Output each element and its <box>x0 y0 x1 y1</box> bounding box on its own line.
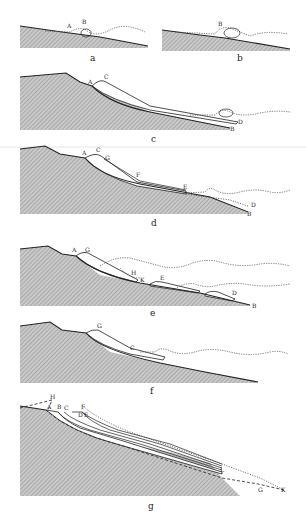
panel-e-label-B: B <box>252 302 257 309</box>
panel-b-ground <box>162 30 290 51</box>
panel-d-label-C: C <box>96 146 101 153</box>
panel-d-label-E: E <box>183 183 187 190</box>
panel-d-label-G: G <box>105 154 110 161</box>
panel-d-caption: d <box>151 218 157 228</box>
panel-f-label-G: G <box>97 322 102 329</box>
panel-e-label-G: G <box>85 246 90 253</box>
panel-c-label-C: C <box>104 73 109 80</box>
panel-a-caption: a <box>90 53 96 63</box>
panel-e-label-K: K <box>140 276 145 283</box>
panel-d-wave <box>186 188 290 193</box>
panel-g-label-C: C <box>64 404 69 411</box>
panel-e-caption: e <box>150 308 155 318</box>
panel-f-wave <box>140 349 288 355</box>
panel-g-label-K: K <box>281 486 286 493</box>
panel-f: G C f <box>20 322 288 396</box>
panel-g-label-D: D <box>78 411 83 418</box>
panel-g-label-L: L <box>220 466 224 473</box>
panel-c-label-B: B <box>230 125 235 132</box>
panel-d-label-B: B <box>247 210 252 217</box>
panel-g-ground <box>20 406 240 496</box>
panel-b-label-B: B <box>218 20 223 27</box>
panel-c-wave <box>190 110 290 115</box>
panel-d-label-F: F <box>136 171 140 178</box>
panel-e-label-D: D <box>232 289 237 296</box>
diagram-canvas: A B a B b A C D B c A C G F <box>0 0 306 530</box>
panel-e-label-H: H <box>131 269 136 276</box>
panel-c: A C D B c <box>20 73 290 144</box>
panel-g-label-G: G <box>258 486 263 493</box>
panel-d-label-D: D <box>251 201 256 208</box>
panel-g-label-A: A <box>46 403 52 410</box>
panel-c-label-D: D <box>238 118 243 125</box>
panel-d: A C G F E D B d <box>20 146 290 228</box>
panel-b: B b <box>162 20 290 63</box>
panel-c-eddy <box>219 109 233 117</box>
panel-g-label-B: B <box>57 403 62 410</box>
panel-b-eddy <box>224 28 240 38</box>
panel-b-caption: b <box>237 53 243 63</box>
panel-g-label-F: F <box>81 403 85 410</box>
panel-a: A B a <box>20 18 148 63</box>
panel-g-label-H: H <box>50 393 55 400</box>
panel-f-caption: f <box>150 386 154 396</box>
panel-d-label-A: A <box>81 149 87 156</box>
panel-e: A G H K E D B e <box>20 246 290 318</box>
panel-g-caption: g <box>148 501 154 511</box>
panel-c-label-A: A <box>87 78 93 85</box>
panel-e-label-A: A <box>71 246 77 253</box>
panel-g: H A B C D E F L G K g <box>20 393 286 511</box>
panel-f-label-C: C <box>130 344 135 351</box>
panel-e-label-E: E <box>160 274 164 281</box>
panel-a-label-B: B <box>82 18 87 25</box>
panel-c-caption: c <box>151 134 156 144</box>
panel-e-wave-upper <box>100 258 290 268</box>
panel-g-label-E: E <box>84 411 88 418</box>
panel-a-label-A: A <box>66 22 72 29</box>
